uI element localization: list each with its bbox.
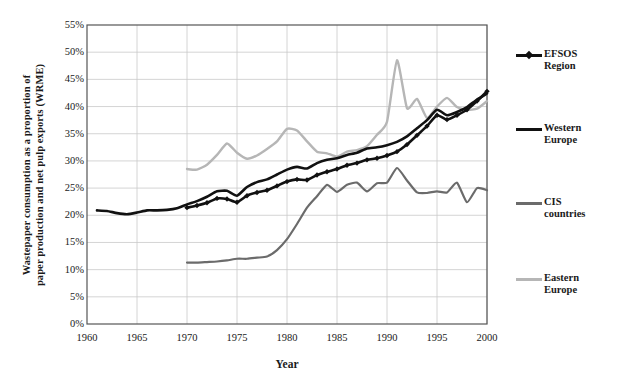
x-axis-title: Year bbox=[87, 358, 487, 370]
x-axis-tick-label: 1970 bbox=[162, 332, 212, 343]
legend-label-line1: Western bbox=[544, 122, 581, 134]
x-axis-tick-label: 1965 bbox=[112, 332, 162, 343]
legend-label-line2: Region bbox=[544, 60, 577, 72]
x-axis-tick-label: 1985 bbox=[312, 332, 362, 343]
x-axis-tick-label: 1960 bbox=[62, 332, 112, 343]
x-axis-tick-label: 1980 bbox=[262, 332, 312, 343]
legend-label-line1: CIS bbox=[544, 196, 585, 208]
legend-item-eastern[interactable]: EasternEurope bbox=[516, 272, 628, 296]
legend-label-line1: EFSOS bbox=[544, 48, 577, 60]
legend-label-line2: Europe bbox=[544, 134, 581, 146]
x-axis-tick-label: 2000 bbox=[462, 332, 512, 343]
legend-item-cis[interactable]: CIScountries bbox=[516, 196, 628, 220]
legend-swatch-icon bbox=[516, 123, 542, 135]
x-axis-tick-label: 1990 bbox=[362, 332, 412, 343]
chart-figure: Wastepaper consumption as a proportion o… bbox=[0, 0, 632, 388]
series-marker-efsos-region bbox=[374, 156, 379, 161]
series-line-western-europe bbox=[97, 94, 487, 215]
x-axis-tick-label: 1995 bbox=[412, 332, 462, 343]
legend-swatch-icon bbox=[516, 49, 542, 61]
series-marker-efsos-region bbox=[194, 203, 199, 208]
legend-label-line2: Europe bbox=[544, 284, 579, 296]
legend-label-line2: countries bbox=[544, 208, 585, 220]
legend-swatch-icon bbox=[516, 197, 542, 209]
series-marker-efsos-region bbox=[254, 190, 259, 195]
legend-item-efsos[interactable]: EFSOSRegion bbox=[516, 48, 628, 72]
x-axis-tick-label: 1975 bbox=[212, 332, 262, 343]
series-marker-efsos-region bbox=[294, 177, 299, 182]
legend-label-line1: Eastern bbox=[544, 272, 579, 284]
legend-swatch-icon bbox=[516, 273, 542, 285]
legend-item-western[interactable]: WesternEurope bbox=[516, 122, 628, 146]
chart-legend: EFSOSRegionWesternEuropeCIScountriesEast… bbox=[516, 26, 628, 326]
